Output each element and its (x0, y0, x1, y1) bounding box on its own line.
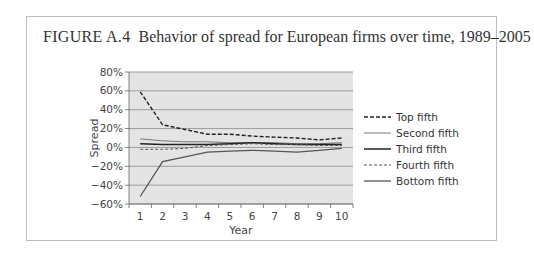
legend-label: Third fifth (395, 143, 447, 155)
x-tick-label: 2 (159, 210, 166, 222)
y-tick-label: 40% (100, 103, 123, 115)
y-axis-label: Spread (88, 119, 101, 158)
plot-area (129, 72, 353, 204)
y-tick-label: 0% (106, 141, 123, 153)
legend-label: Second fifth (396, 127, 459, 139)
x-tick-label: 8 (294, 210, 301, 222)
x-tick-label: 5 (226, 210, 233, 222)
legend-label: Fourth fifth (396, 159, 454, 171)
x-tick-label: 1 (137, 210, 144, 222)
y-tick-label: −40% (91, 179, 123, 191)
y-tick-label: −20% (91, 160, 123, 172)
y-tick-label: 60% (100, 84, 123, 96)
y-tick-label: 80% (100, 66, 123, 78)
legend-label: Top fifth (395, 111, 438, 123)
x-tick-label: 9 (316, 210, 323, 222)
legend-label: Bottom fifth (396, 175, 459, 187)
x-tick-label: 10 (335, 210, 348, 222)
y-tick-label: −60% (91, 198, 123, 210)
y-tick-label: 20% (100, 122, 123, 134)
x-tick-label: 7 (271, 210, 278, 222)
x-tick-label: 3 (182, 210, 189, 222)
line-chart: 80%60%40%20%0%−20%−40%−60%12345678910Yea… (0, 0, 534, 269)
x-tick-label: 4 (204, 210, 211, 222)
x-tick-label: 6 (249, 210, 256, 222)
x-axis-label: Year (228, 224, 253, 237)
